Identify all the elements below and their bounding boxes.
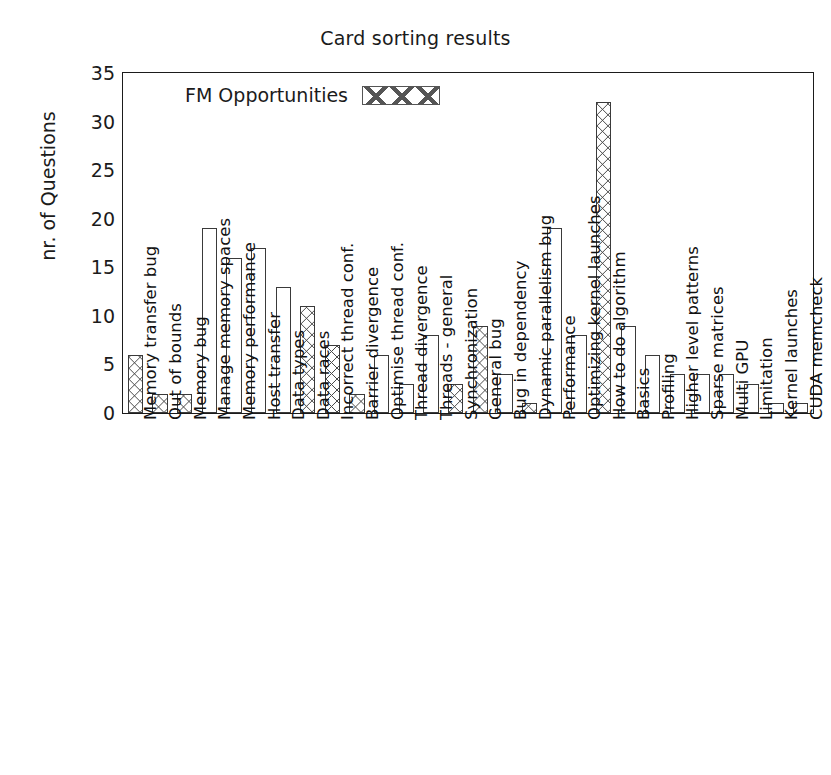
x-tick-label: How to do algorithm bbox=[610, 252, 629, 421]
x-tick-label: General bug bbox=[486, 318, 505, 420]
x-tick-label: Host transfer bbox=[265, 312, 284, 420]
x-tick-label: Data types bbox=[289, 330, 308, 420]
chart-figure: Card sorting results nr. of Questions 05… bbox=[0, 0, 831, 775]
x-tick-label: Multi GPU bbox=[733, 340, 752, 420]
x-tick-label: Incorrect thread conf. bbox=[338, 243, 357, 420]
y-tick-label: 0 bbox=[35, 402, 115, 424]
x-tick-label: Data races bbox=[314, 331, 333, 420]
x-tick-label: Thread divergence bbox=[412, 265, 431, 420]
x-tick-label: Bug in dependency bbox=[511, 261, 530, 420]
x-tick-label: Higher level patterns bbox=[683, 246, 702, 420]
y-tick-label: 10 bbox=[35, 305, 115, 327]
y-tick-label: 30 bbox=[35, 111, 115, 133]
x-tick-label: Optimise thread conf. bbox=[388, 242, 407, 420]
x-tick-label: Limitation bbox=[757, 337, 776, 420]
x-tick-label: Threads - general bbox=[437, 275, 456, 420]
x-tick-label: Out of bounds bbox=[166, 303, 185, 420]
chart-legend: FM Opportunities bbox=[185, 84, 440, 106]
x-tick-label: Optimizing kernel launches bbox=[585, 195, 604, 420]
x-axis-tick-labels: Memory transfer bugOut of boundsMemory b… bbox=[123, 414, 813, 714]
x-tick-label: Performance bbox=[560, 315, 579, 420]
y-tick-label: 15 bbox=[35, 256, 115, 278]
x-tick-label: Memory transfer bug bbox=[141, 246, 160, 420]
y-tick-label: 35 bbox=[35, 62, 115, 84]
x-tick-label: Manage memory spaces bbox=[215, 218, 234, 420]
chart-title: Card sorting results bbox=[0, 27, 831, 49]
x-tick-label: Basics bbox=[634, 368, 653, 420]
x-tick-label: Dynamic parallelism bug bbox=[536, 215, 555, 420]
x-tick-label: Kernel launches bbox=[782, 289, 801, 420]
x-tick-label: Sparse matrices bbox=[708, 286, 727, 420]
x-tick-label: Barrier divergence bbox=[363, 267, 382, 420]
y-tick-label: 5 bbox=[35, 353, 115, 375]
x-tick-label: CUDA memcheck bbox=[807, 277, 826, 420]
legend-label-fm-opportunities: FM Opportunities bbox=[185, 84, 348, 106]
x-tick-label: Synchronization bbox=[462, 288, 481, 420]
x-tick-label: Memory performance bbox=[240, 242, 259, 420]
x-tick-label: Profiling bbox=[659, 353, 678, 420]
y-tick-label: 25 bbox=[35, 159, 115, 181]
y-tick-label: 20 bbox=[35, 208, 115, 230]
legend-swatch-crosshatch-icon bbox=[362, 86, 440, 105]
x-tick-label: Memory bug bbox=[191, 316, 210, 420]
